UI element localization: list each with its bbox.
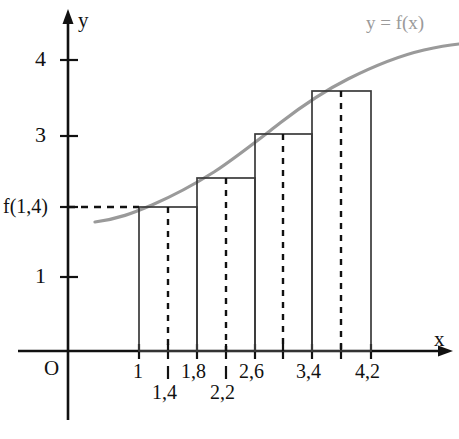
plot-canvas <box>0 0 459 439</box>
x-tick-label-1-4: 1,4 <box>152 382 177 402</box>
y-tick-label-1: 1 <box>35 265 46 287</box>
function-curve <box>95 44 459 222</box>
origin-label: O <box>44 358 59 379</box>
x-tick-label-1: 1 <box>133 361 143 381</box>
x-tick-label-1-8: 1,8 <box>181 361 206 381</box>
y-axis-label: y <box>78 10 89 31</box>
x-tick-label-2-2: 2,2 <box>210 382 235 402</box>
y-axis <box>60 9 78 420</box>
y-axis-arrowhead <box>63 9 74 24</box>
y-tick-label-3: 3 <box>35 124 46 146</box>
curve-label: y = f(x) <box>366 13 424 32</box>
x-tick-label-4-2: 4,2 <box>355 361 380 381</box>
rectangle-group <box>139 91 371 351</box>
x-tick-label-3-4: 3,4 <box>296 361 321 381</box>
x-tick-label-2-6: 2,6 <box>239 361 264 381</box>
riemann-sum-figure: y x y = f(x) O 4 3 1 f(1,4) 1 1,4 1,8 2,… <box>0 0 459 439</box>
x-axis-label: x <box>434 329 445 350</box>
y-tick-label-4: 4 <box>35 48 46 70</box>
f-value-label: f(1,4) <box>3 196 48 216</box>
x-axis <box>18 344 453 379</box>
